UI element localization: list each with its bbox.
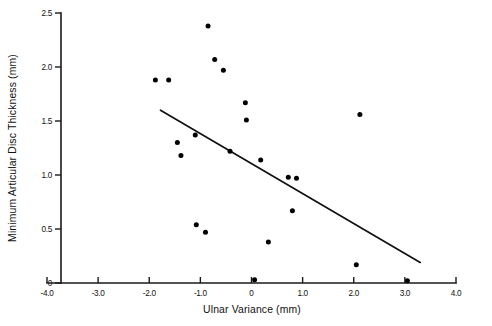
data-points-group	[153, 23, 410, 283]
y-tick-label: 1.5	[42, 117, 53, 126]
data-point	[221, 68, 226, 73]
x-tick-label: 2.0	[349, 289, 360, 298]
data-point	[175, 140, 180, 145]
scatter-plot-figure: 00.51.01.52.02.5 -4.0-3.0-2.0-1.001.02.0…	[0, 0, 492, 326]
axes-group	[47, 13, 456, 283]
x-axis-title: Ulnar Variance (mm)	[203, 304, 301, 315]
data-point	[212, 57, 217, 62]
data-point	[194, 222, 199, 227]
y-axis-ticks: 00.51.01.52.02.5	[42, 9, 61, 288]
plot-canvas: 00.51.01.52.02.5 -4.0-3.0-2.0-1.001.02.0…	[0, 0, 492, 326]
y-tick-label: 0	[48, 279, 53, 288]
data-point	[203, 230, 208, 235]
data-point	[206, 23, 211, 28]
data-point	[405, 278, 410, 283]
data-point	[294, 176, 299, 181]
x-tick-label: 0	[249, 289, 254, 298]
data-point	[252, 277, 257, 282]
y-tick-label: 0.5	[42, 225, 53, 234]
data-point	[258, 157, 263, 162]
data-point	[286, 175, 291, 180]
y-tick-label: 2.0	[42, 63, 53, 72]
data-point	[243, 100, 248, 105]
data-point	[153, 77, 158, 82]
data-point	[244, 117, 249, 122]
data-point	[357, 112, 362, 117]
x-tick-label: 4.0	[451, 289, 462, 298]
x-tick-label: -4.0	[41, 289, 55, 298]
data-point	[178, 153, 183, 158]
x-tick-label: -3.0	[92, 289, 106, 298]
y-tick-label: 1.0	[42, 171, 53, 180]
data-point	[166, 77, 171, 82]
data-point	[266, 239, 271, 244]
x-tick-label: 3.0	[400, 289, 411, 298]
x-tick-label: -1.0	[194, 289, 208, 298]
y-axis-title: Minimum Articular Disc Thickness (mm)	[7, 54, 18, 242]
data-point	[290, 208, 295, 213]
data-point	[228, 149, 233, 154]
x-tick-label: 1.0	[297, 289, 308, 298]
x-axis-ticks: -4.0-3.0-2.0-1.001.02.03.04.0	[41, 277, 462, 298]
regression-line	[160, 110, 420, 262]
data-point	[354, 262, 359, 267]
y-tick-label: 2.5	[42, 9, 53, 18]
data-point	[193, 133, 198, 138]
regression-line-group	[160, 110, 420, 262]
x-tick-label: -2.0	[143, 289, 157, 298]
